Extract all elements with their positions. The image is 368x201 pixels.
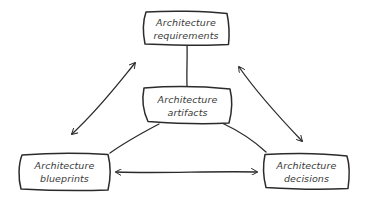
node-artifacts-line1: Architecture	[158, 93, 218, 106]
node-artifacts: Architecture artifacts	[143, 89, 232, 122]
architecture-diagram: Architecture requirements Architecture a…	[0, 0, 368, 201]
node-decisions-line2: decisions	[284, 172, 329, 185]
arrow-requirements-blueprints	[72, 63, 135, 134]
edge-artifacts-blueprints	[110, 124, 159, 153]
node-artifacts-line2: artifacts	[167, 106, 207, 119]
node-decisions-line1: Architecture	[277, 159, 337, 172]
node-requirements: Architecture requirements	[143, 13, 229, 44]
node-decisions: Architecture decisions	[264, 155, 349, 188]
arrow-blueprints-decisions	[116, 172, 257, 173]
arrow-requirements-decisions	[239, 67, 302, 141]
node-blueprints: Architecture blueprints	[19, 155, 110, 189]
edge-artifacts-decisions	[222, 123, 266, 152]
node-blueprints-line1: Architecture	[35, 159, 95, 172]
node-requirements-line1: Architecture	[156, 16, 216, 29]
node-requirements-line2: requirements	[153, 29, 218, 42]
node-blueprints-line2: blueprints	[40, 172, 89, 185]
